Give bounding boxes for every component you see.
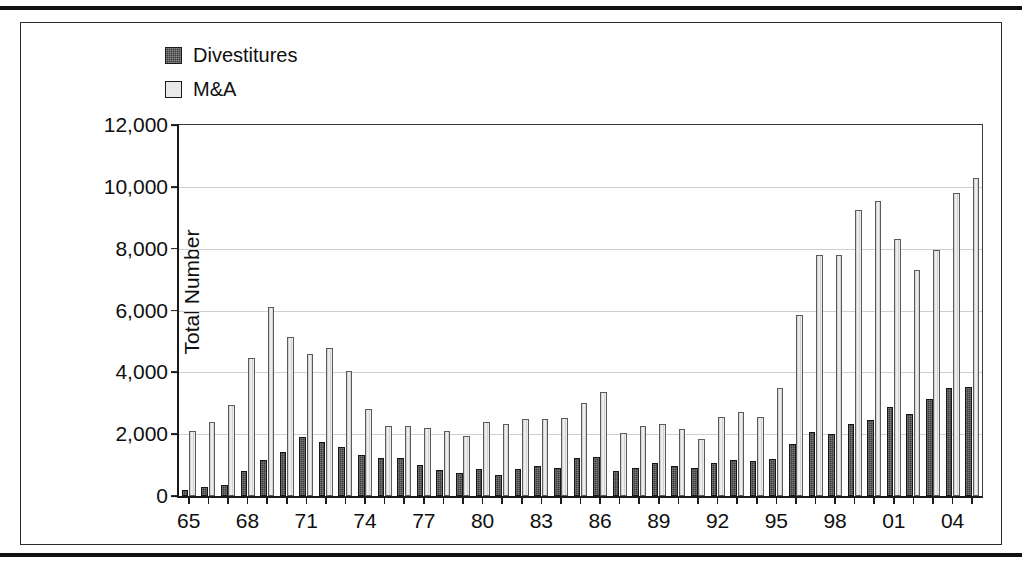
- bar-divestitures: [613, 471, 620, 496]
- bar-divestitures: [965, 387, 972, 496]
- x-axis-tick-mark: [423, 496, 425, 504]
- bar-ma: [757, 417, 764, 496]
- bar-ma: [718, 417, 725, 496]
- y-axis-tick-mark: [171, 433, 179, 435]
- bar-ma: [796, 315, 803, 496]
- legend-item-ma: M&A: [165, 72, 297, 106]
- figure-page: Divestitures M&A Total Number 02,0004,00…: [0, 0, 1022, 568]
- bar-ma: [933, 250, 940, 496]
- bar-ma: [640, 426, 647, 496]
- bar-divestitures: [476, 469, 483, 496]
- bar-ma: [738, 412, 745, 496]
- bar-divestitures: [338, 447, 345, 496]
- x-axis-tick-label: 04: [941, 509, 964, 533]
- x-axis-tick-mark: [443, 496, 445, 504]
- x-axis-tick-mark: [541, 496, 543, 504]
- bar-divestitures: [515, 469, 522, 496]
- x-axis-tick-label: 86: [588, 509, 611, 533]
- bar-ma: [542, 419, 549, 496]
- bar-divestitures: [867, 420, 874, 496]
- bar-divestitures: [574, 458, 581, 496]
- y-axis-tick-label: 0: [156, 484, 168, 508]
- y-axis-tick-label: 6,000: [115, 299, 168, 323]
- legend-item-divestitures: Divestitures: [165, 38, 297, 72]
- x-axis-tick-mark: [638, 496, 640, 504]
- x-axis-tick-label: 68: [236, 509, 259, 533]
- bar-ma: [561, 418, 568, 496]
- bar-ma: [385, 426, 392, 496]
- legend-label-divestitures: Divestitures: [193, 45, 297, 65]
- x-axis-tick-mark: [286, 496, 288, 504]
- bar-ma: [600, 392, 607, 496]
- bar-divestitures: [182, 490, 189, 496]
- x-axis-tick-mark: [795, 496, 797, 504]
- x-axis-tick-mark: [736, 496, 738, 504]
- x-axis-tick-label: 65: [177, 509, 200, 533]
- x-axis-tick-label: 74: [353, 509, 376, 533]
- x-axis-tick-mark: [208, 496, 210, 504]
- bar-ma: [424, 428, 431, 496]
- y-axis-tick-label: 2,000: [115, 422, 168, 446]
- bar-ma: [836, 255, 843, 496]
- y-axis-tick-mark: [171, 248, 179, 250]
- ma-swatch-icon: [165, 81, 182, 98]
- y-axis-tick-mark: [171, 371, 179, 373]
- bar-divestitures: [554, 468, 561, 496]
- bar-ma: [953, 193, 960, 496]
- bar-ma: [914, 270, 921, 496]
- bar-divestitures: [417, 465, 424, 496]
- plot-area: Total Number 02,0004,0006,0008,00010,000…: [177, 124, 983, 498]
- bar-divestitures: [769, 459, 776, 496]
- bar-divestitures: [711, 463, 718, 496]
- bar-divestitures: [750, 461, 757, 496]
- x-axis-tick-label: 95: [765, 509, 788, 533]
- x-axis-tick-mark: [403, 496, 405, 504]
- bar-divestitures: [671, 466, 678, 496]
- x-axis-tick-label: 71: [295, 509, 318, 533]
- bar-ma: [346, 371, 353, 496]
- x-axis-tick-mark: [717, 496, 719, 504]
- bar-ma: [503, 424, 510, 496]
- x-axis-tick-mark: [834, 496, 836, 504]
- x-axis-tick-mark: [462, 496, 464, 504]
- bar-ma: [307, 354, 314, 496]
- x-axis-tick-mark: [697, 496, 699, 504]
- legend-label-ma: M&A: [193, 79, 236, 99]
- bar-divestitures: [358, 455, 365, 496]
- bar-ma: [268, 307, 275, 496]
- x-axis-tick-mark: [756, 496, 758, 504]
- x-axis-tick-mark: [619, 496, 621, 504]
- y-axis-tick-label: 12,000: [104, 113, 168, 137]
- bar-divestitures: [221, 485, 228, 496]
- bar-ma: [816, 255, 823, 496]
- x-axis-tick-mark: [266, 496, 268, 504]
- bar-divestitures: [652, 463, 659, 496]
- x-axis-tick-mark: [854, 496, 856, 504]
- x-axis-tick-mark: [501, 496, 503, 504]
- bar-ma: [326, 348, 333, 496]
- x-axis-tick-mark: [599, 496, 601, 504]
- x-axis-tick-mark: [913, 496, 915, 504]
- bar-divestitures: [397, 458, 404, 496]
- x-axis-tick-mark: [893, 496, 895, 504]
- divestitures-swatch-icon: [165, 47, 182, 64]
- bar-divestitures: [495, 475, 502, 496]
- x-axis-tick-mark: [580, 496, 582, 504]
- gridline: [179, 187, 982, 188]
- x-axis-tick-mark: [952, 496, 954, 504]
- y-axis-tick-label: 4,000: [115, 360, 168, 384]
- y-axis-tick-mark: [171, 495, 179, 497]
- bar-divestitures: [906, 414, 913, 496]
- x-axis-tick-mark: [521, 496, 523, 504]
- bar-divestitures: [809, 432, 816, 496]
- bar-ma: [444, 431, 451, 496]
- bar-ma: [777, 388, 784, 496]
- bar-divestitures: [436, 470, 443, 496]
- bar-divestitures: [201, 487, 208, 496]
- x-axis-tick-mark: [776, 496, 778, 504]
- chart-legend: Divestitures M&A: [165, 38, 297, 106]
- bar-ma: [875, 201, 882, 496]
- bar-divestitures: [299, 437, 306, 496]
- bar-divestitures: [632, 468, 639, 496]
- x-axis-tick-mark: [306, 496, 308, 504]
